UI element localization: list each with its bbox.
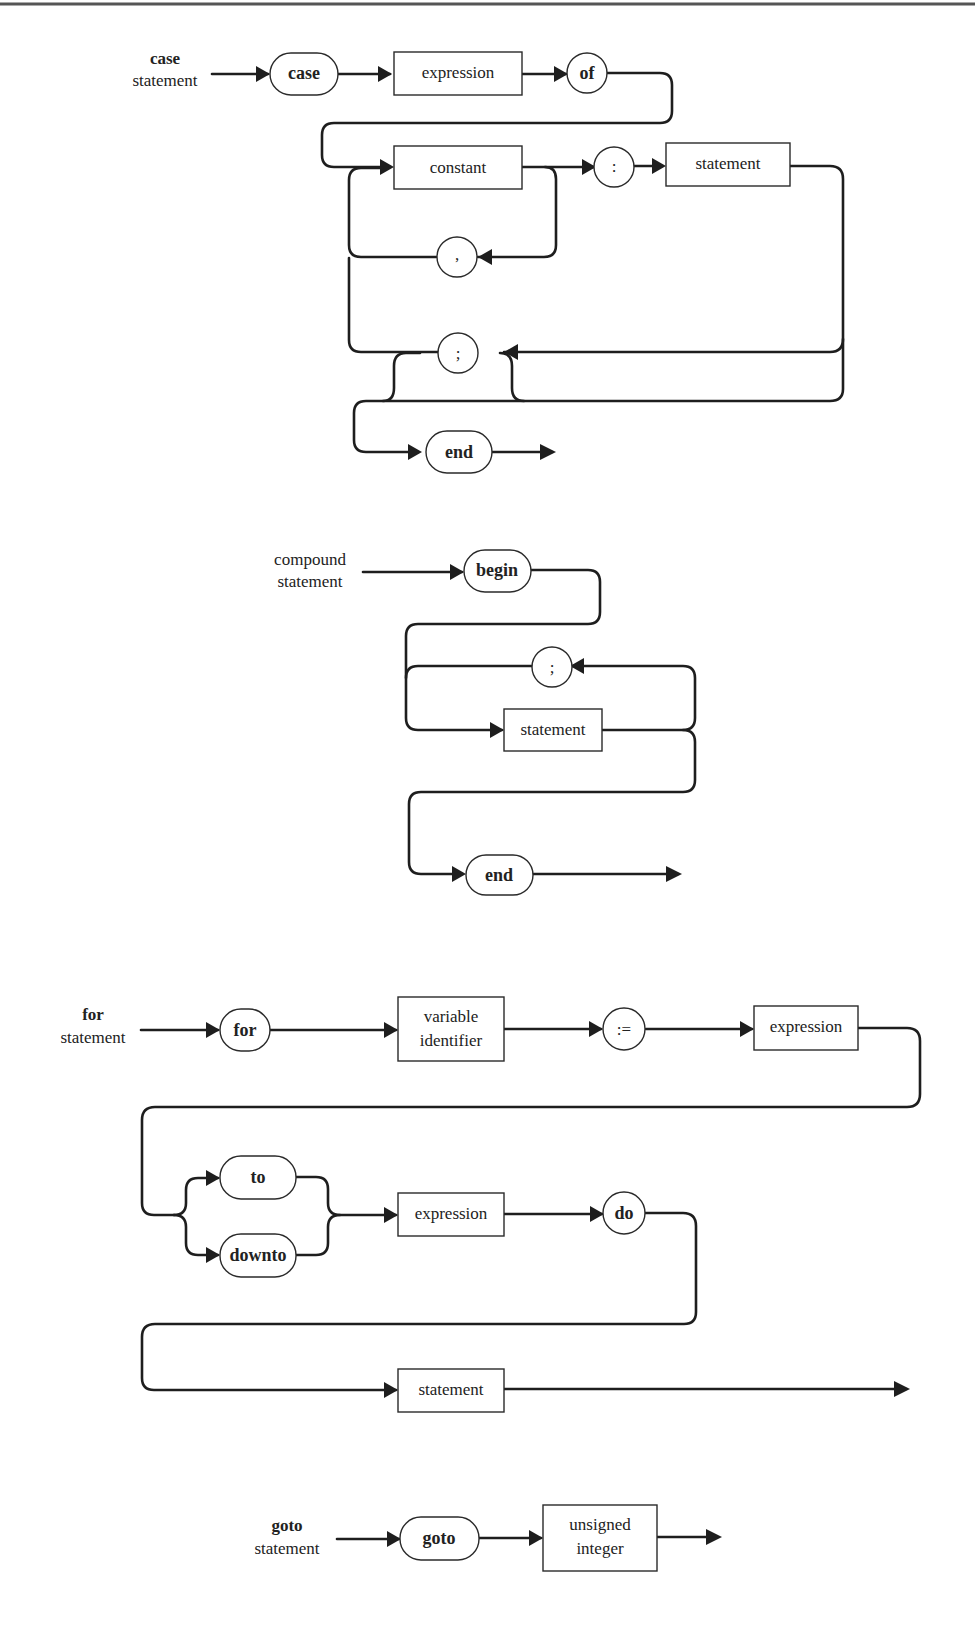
compound-begin-text: begin xyxy=(476,560,518,580)
compound-semicolon-return xyxy=(406,666,532,678)
case-keyword-text: case xyxy=(288,63,320,83)
arrow-icon xyxy=(450,564,464,580)
arrow-icon xyxy=(529,1530,543,1546)
case-bottom-line xyxy=(354,339,843,452)
goto-keyword-text: goto xyxy=(423,1528,456,1548)
compound-statement-text: statement xyxy=(520,720,585,739)
for-fork-downto xyxy=(174,1215,218,1255)
arrow-icon xyxy=(666,866,682,882)
arrow-icon xyxy=(894,1381,910,1397)
for-keyword-text: for xyxy=(234,1020,257,1040)
case-constant-text: constant xyxy=(430,158,487,177)
arrow-icon xyxy=(590,1206,604,1222)
for-variable-text-2: identifier xyxy=(420,1031,483,1050)
arrow-icon xyxy=(378,66,392,82)
arrow-icon xyxy=(408,444,422,460)
arrow-icon xyxy=(384,1207,398,1223)
for-expression1-text: expression xyxy=(770,1017,843,1036)
arrow-icon xyxy=(206,1022,220,1038)
arrow-icon xyxy=(652,158,666,174)
arrow-icon xyxy=(206,1247,220,1263)
arrow-icon xyxy=(706,1529,722,1545)
for-do-text: do xyxy=(614,1203,633,1223)
arrow-icon xyxy=(540,444,556,460)
arrow-icon xyxy=(256,66,270,82)
goto-title: statement xyxy=(254,1539,319,1558)
arrow-icon xyxy=(589,1021,603,1037)
syntax-diagrams: case statement case xyxy=(0,0,975,1644)
goto-integer-text-1: unsigned xyxy=(569,1515,631,1534)
case-of-text: of xyxy=(580,63,596,83)
case-end-text: end xyxy=(445,442,473,462)
for-to-text: to xyxy=(251,1167,266,1187)
goto-title-bold: goto xyxy=(271,1516,302,1535)
arrow-icon xyxy=(478,249,492,265)
for-fork-to xyxy=(174,1178,218,1215)
arrow-icon xyxy=(384,1022,398,1038)
compound-semicolon-text: ; xyxy=(550,658,555,677)
for-title-bold: for xyxy=(82,1005,104,1024)
goto-statement-diagram: goto statement goto unsigned integer xyxy=(254,1505,722,1571)
for-statement-text: statement xyxy=(418,1380,483,1399)
for-variable-text-1: variable xyxy=(424,1007,479,1026)
for-expression2-text: expression xyxy=(415,1204,488,1223)
case-statement-text: statement xyxy=(695,154,760,173)
goto-integer-text-2: integer xyxy=(576,1539,624,1558)
case-statement-diagram: case statement case xyxy=(132,49,843,473)
case-semicolon-text: ; xyxy=(456,344,461,363)
for-statement-diagram: for statement for variable identifier xyxy=(60,997,920,1412)
for-assign-text: := xyxy=(617,1020,631,1039)
compound-end-text: end xyxy=(485,865,513,885)
case-colon-text: : xyxy=(612,157,617,176)
arrow-icon xyxy=(206,1170,220,1186)
for-join-to xyxy=(296,1177,340,1215)
for-title: statement xyxy=(60,1028,125,1047)
case-expression-text: expression xyxy=(422,63,495,82)
for-downto-text: downto xyxy=(229,1245,286,1265)
for-wrap-line-2 xyxy=(142,1213,696,1390)
for-join-downto xyxy=(296,1215,396,1255)
compound-wrap-line xyxy=(406,570,600,730)
arrow-icon xyxy=(554,66,568,82)
arrow-icon xyxy=(490,722,504,738)
arrow-icon xyxy=(740,1021,754,1037)
case-title-bold: case xyxy=(150,49,181,68)
arrow-icon xyxy=(384,1382,398,1398)
compound-title-line1: compound xyxy=(274,550,346,569)
compound-statement-diagram: compound statement begin ; statement end xyxy=(274,550,695,895)
case-comma-text: , xyxy=(455,245,459,264)
arrow-icon xyxy=(452,866,466,882)
case-title: statement xyxy=(132,71,197,90)
compound-title-line2: statement xyxy=(277,572,342,591)
arrow-icon xyxy=(387,1531,401,1547)
